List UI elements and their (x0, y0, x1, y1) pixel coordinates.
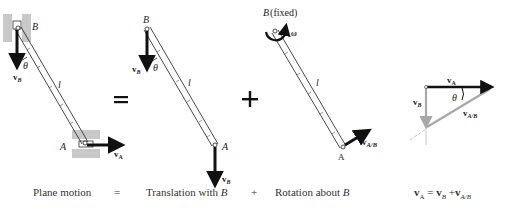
pin-a (341, 145, 345, 149)
lower-guide-bottom (72, 149, 100, 158)
upper-guide-left (3, 14, 12, 42)
pin-a (83, 141, 87, 145)
label-omega: ω (291, 29, 297, 38)
bar-ab (272, 30, 346, 148)
label-a: A (338, 152, 345, 162)
label-vb: vB (413, 97, 422, 108)
label-vb-top: vB (132, 64, 141, 75)
upper-guide-right (22, 14, 31, 42)
label-b: B (143, 14, 149, 25)
pin-a (213, 143, 217, 147)
label-b: B (32, 21, 38, 32)
label-theta: θ (452, 92, 457, 103)
caption-translation: Translation with B (146, 186, 228, 198)
label-theta: θ (153, 62, 158, 73)
caption-equals: = (114, 186, 120, 198)
theta-arc (148, 58, 157, 61)
label-vb-bottom: vB (222, 174, 231, 185)
label-length: l (316, 77, 319, 88)
caption-equation: vA = vB +vA/B (414, 186, 471, 201)
label-vab: vA/B (463, 108, 477, 119)
caption-plus: + (251, 186, 257, 198)
caption-rotation: Rotation about B (275, 186, 350, 198)
label-a: A (59, 141, 67, 152)
pin-b (16, 26, 20, 30)
theta-arc (462, 88, 464, 100)
label-vb: vB (13, 72, 22, 83)
guide-extension (410, 129, 426, 140)
panel-rotation: B(fixed) ω l A vA/B (263, 7, 378, 162)
kinematics-diagram: B θ l A vB vA B θ l A vB vB (0, 0, 505, 214)
bar-ab (144, 27, 218, 146)
vector-vab (427, 89, 490, 127)
label-a: A (221, 141, 229, 152)
panel-plane-motion: B θ l A vB vA (3, 14, 124, 160)
label-va: vA (114, 149, 124, 160)
label-va: vA (447, 75, 457, 86)
plus-operator (242, 91, 258, 107)
pin-b-fixed (273, 29, 277, 33)
label-length: l (58, 79, 61, 90)
panel-vector-triangle: vA θ vB vA/B (410, 75, 491, 145)
equals-operator (114, 96, 128, 103)
label-length: l (188, 77, 191, 88)
label-theta: θ (23, 60, 28, 71)
panel-translation: B θ l A vB vB (132, 14, 231, 185)
bar-ab (15, 27, 88, 144)
label-vab: vA/B (362, 137, 378, 148)
label-b-fixed: B(fixed) (263, 7, 297, 19)
origin-point (425, 86, 428, 89)
caption-plane-motion: Plane motion (33, 186, 91, 198)
pin-b (145, 27, 149, 31)
